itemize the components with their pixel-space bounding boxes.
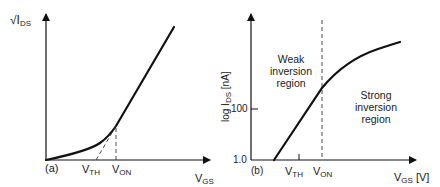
von-sub: ON bbox=[320, 170, 332, 179]
panel-b-x-label: VGS [V] bbox=[394, 172, 429, 185]
panel-b-ytick-1: 1.0 bbox=[233, 155, 247, 165]
annotation-line: region bbox=[350, 113, 402, 125]
panel-a-curve bbox=[46, 27, 174, 160]
x-label-sub: GS bbox=[401, 176, 413, 185]
panel-b-y-label: log IDS [nA] bbox=[221, 71, 233, 122]
annotation-line: region bbox=[266, 77, 316, 89]
weak-inversion-annotation: Weak inversion region bbox=[266, 53, 316, 89]
x-label-post: [V] bbox=[413, 171, 430, 183]
panel-a bbox=[46, 14, 210, 160]
panel-a-vth-label: VTH bbox=[82, 164, 100, 177]
von-sub: ON bbox=[119, 168, 131, 177]
annotation-line: Weak bbox=[266, 53, 316, 65]
panel-a-von-label: VON bbox=[112, 164, 131, 177]
y-label-pre: log I bbox=[220, 103, 231, 122]
y-label-sub: DS bbox=[224, 92, 233, 103]
x-label-sub: GS bbox=[202, 177, 214, 186]
y-label-post: [nA] bbox=[220, 71, 231, 92]
panel-a-label: (a) bbox=[45, 163, 58, 174]
strong-inversion-annotation: Strong inversion region bbox=[350, 89, 402, 125]
y-label-sub: DS bbox=[20, 19, 31, 28]
vth-sub: TH bbox=[89, 168, 100, 177]
annotation-line: Strong bbox=[350, 89, 402, 101]
panel-a-x-label: VGS bbox=[195, 173, 214, 186]
panel-b-label: (b) bbox=[251, 166, 263, 176]
vth-sub: TH bbox=[292, 170, 303, 179]
y-label-main: √I bbox=[10, 13, 20, 27]
annotation-line: inversion bbox=[350, 101, 402, 113]
panel-b-ytick-100: 100 bbox=[231, 104, 248, 114]
annotation-line: inversion bbox=[266, 65, 316, 77]
panel-b-vth-label: VTH bbox=[285, 166, 303, 179]
panel-b-von-label: VON bbox=[313, 166, 332, 179]
panel-a-y-label: √IDS bbox=[10, 14, 31, 28]
